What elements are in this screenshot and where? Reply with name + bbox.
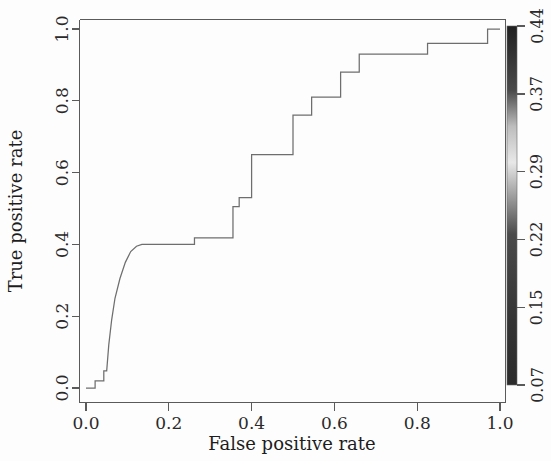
y-tick-label: 0.4: [52, 231, 72, 258]
y-tick-label: 0.6: [52, 159, 72, 186]
colorbar-tick-label: 0.22: [528, 222, 547, 258]
x-tick-label: 0.8: [404, 413, 431, 433]
y-tick-label: 0.2: [52, 303, 72, 330]
roc-curve-line: [86, 29, 500, 388]
y-tick-label: 0.8: [52, 87, 72, 114]
x-tick-label: 0.4: [238, 413, 265, 433]
y-tick-label: 1.0: [52, 15, 72, 42]
colorbar-group: 0.070.150.220.290.370.44: [507, 8, 547, 403]
x-axis-title: False positive rate: [208, 433, 375, 454]
x-axis-ticks: 0.00.20.40.60.81.0: [72, 403, 513, 433]
roc-curve-figure: 0.00.20.40.60.81.0 0.00.20.40.60.81.0 0.…: [0, 0, 551, 461]
colorbar-tick-label: 0.07: [528, 367, 547, 403]
colorbar-ticks: 0.070.150.220.290.370.44: [517, 8, 547, 403]
x-tick-label: 0.2: [155, 413, 182, 433]
y-axis-title: True positive rate: [5, 130, 26, 293]
x-tick-label: 0.6: [321, 413, 348, 433]
y-axis-ticks: 0.00.20.40.60.81.0: [52, 15, 80, 401]
plot-frame: [80, 20, 506, 403]
colorbar-gradient: [507, 26, 517, 385]
roc-plot-svg: 0.00.20.40.60.81.0 0.00.20.40.60.81.0 0.…: [0, 0, 551, 461]
colorbar-tick-label: 0.29: [528, 154, 547, 190]
colorbar-tick-label: 0.44: [528, 8, 547, 44]
x-tick-label: 1.0: [486, 413, 513, 433]
y-tick-label: 0.0: [52, 374, 72, 401]
colorbar-tick-label: 0.37: [528, 76, 547, 112]
x-tick-label: 0.0: [72, 413, 99, 433]
colorbar-tick-label: 0.15: [528, 290, 547, 326]
